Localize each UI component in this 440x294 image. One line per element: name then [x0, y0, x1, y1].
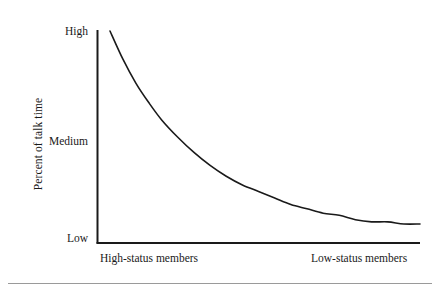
plot-area	[0, 0, 440, 294]
talk-time-curve	[110, 31, 420, 224]
x-label-high-status: High-status members	[100, 252, 198, 264]
footer-rule	[8, 283, 432, 284]
x-label-low-status: Low-status members	[311, 252, 407, 264]
figure-container: Percent of talk time High Medium Low Hig…	[0, 0, 440, 294]
